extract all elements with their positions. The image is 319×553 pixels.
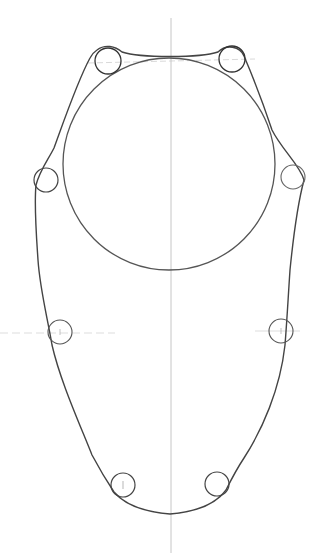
bolt-hole-top-left: [95, 48, 121, 74]
central-bore-circle: [63, 58, 275, 270]
bolt-hole-upper-right: [281, 165, 305, 189]
sketch-canvas: [0, 0, 319, 553]
bolt-hole-bottom-right: [205, 472, 229, 496]
gasket-sketch: [0, 0, 319, 553]
top-horizontal-guide: [88, 59, 255, 63]
